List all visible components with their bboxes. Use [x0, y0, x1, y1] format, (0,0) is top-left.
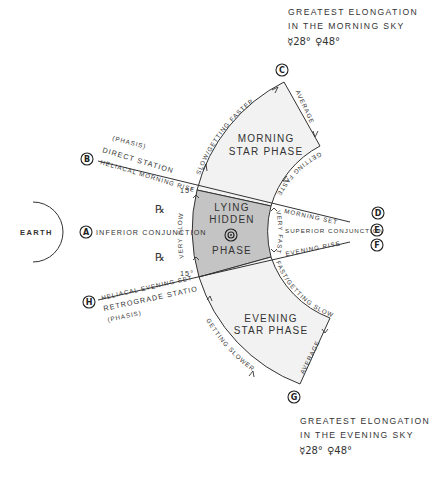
svg-text:EVENING RISE: EVENING RISE — [285, 239, 341, 257]
svg-text:(PHASIS): (PHASIS) — [112, 134, 148, 150]
point-a-letter: A — [83, 228, 90, 237]
angle-top: 15° — [180, 186, 194, 195]
point-h: H — [83, 296, 95, 308]
evening-elongation-title: GREATEST ELONGATION IN THE EVENING SKY ☿… — [299, 416, 430, 456]
evening-mercury-elongation: ☿28° — [299, 445, 323, 456]
point-f-letter: F — [374, 241, 379, 250]
point-e-label: SUPERIOR CONJUNCTION — [285, 227, 384, 234]
hidden-phase-line3: PHASE — [212, 245, 252, 256]
point-d-letter: D — [375, 209, 382, 218]
point-b-phasis-label: (PHASIS) — [112, 134, 148, 150]
evening-phase-line2: STAR PHASE — [234, 325, 309, 336]
point-b-letter: B — [84, 155, 90, 164]
evening-title-line1: GREATEST ELONGATION — [300, 416, 430, 426]
point-d-label: MORNING SET — [284, 207, 339, 225]
retrograde-symbol-bottom: ℞ — [155, 251, 165, 264]
morning-title-line1: GREATEST ELONGATION — [288, 7, 418, 17]
hidden-phase-line1: LYING — [214, 202, 249, 213]
point-g: G — [288, 391, 300, 403]
sun-dot — [230, 234, 232, 236]
point-e: E SUPERIOR CONJUNCTION — [285, 224, 384, 236]
speed-very-fast: VERY FAST — [275, 210, 284, 255]
morning-venus-elongation: ♀48° — [315, 36, 340, 47]
svg-text:VERY FAST: VERY FAST — [275, 210, 284, 255]
point-c-letter: C — [279, 66, 285, 75]
point-b: B — [81, 153, 93, 165]
point-f-label: EVENING RISE — [285, 239, 341, 257]
morning-mercury-elongation: ☿28° — [287, 36, 311, 47]
hidden-phase-line2: HIDDEN — [209, 214, 255, 225]
evening-venus-elongation: ♀48° — [327, 445, 352, 456]
point-h-letter: H — [86, 298, 93, 307]
point-g-letter: G — [291, 393, 298, 402]
morning-title-line2: IN THE MORNING SKY — [288, 21, 405, 31]
angle-bottom: 15° — [180, 269, 194, 278]
morning-phase-line1: MORNING — [238, 133, 295, 144]
morning-phase-line2: STAR PHASE — [229, 146, 304, 157]
evening-title-line2: IN THE EVENING SKY — [300, 430, 414, 440]
phase-diagram: EARTH GREATEST ELONGATION IN THE MORNING… — [0, 0, 433, 482]
morning-elongation-title: GREATEST ELONGATION IN THE MORNING SKY ☿… — [287, 7, 418, 47]
retrograde-symbol-top: ℞ — [155, 203, 165, 216]
point-c: C — [276, 64, 288, 76]
evening-phase-line1: EVENING — [244, 313, 297, 324]
point-a-label: INFERIOR CONJUNCTION — [96, 228, 207, 237]
point-h-station-label: RETROGRADE STATION — [0, 0, 199, 313]
svg-text:MORNING SET: MORNING SET — [284, 207, 339, 225]
point-d: D — [372, 207, 384, 219]
svg-text:RETROGRADE STATION: RETROGRADE STATION — [0, 0, 199, 313]
point-f: F — [371, 239, 383, 251]
point-a: A INFERIOR CONJUNCTION — [80, 226, 207, 238]
earth-label: EARTH — [20, 228, 53, 237]
